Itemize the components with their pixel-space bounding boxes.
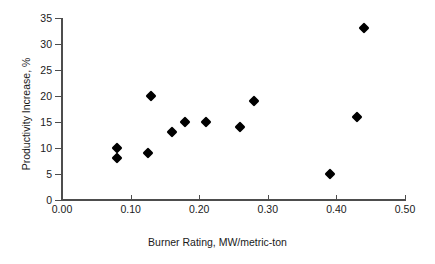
y-axis-tick (55, 96, 62, 97)
x-axis-tick-label: 0.10 (109, 204, 153, 215)
x-axis-tick (405, 195, 406, 201)
y-axis-title: Productivity Increase, % (20, 34, 32, 194)
y-axis-tick-label: 35 (22, 13, 52, 24)
plot-area (62, 18, 405, 200)
y-axis-tick (55, 70, 62, 71)
x-axis-tick-label: 0.40 (314, 204, 358, 215)
y-axis-tick (55, 174, 62, 175)
y-axis-tick (55, 18, 62, 19)
x-axis-tick-label: 0.20 (177, 204, 221, 215)
x-axis-tick-label: 0.30 (246, 204, 290, 215)
y-axis-tick (55, 200, 62, 201)
x-axis-tick-label: 0.50 (383, 204, 427, 215)
y-axis-tick (55, 44, 62, 45)
scatter-chart-figure: 05101520253035 0.000.100.200.300.400.50 … (0, 0, 435, 264)
y-axis-tick (55, 148, 62, 149)
y-axis-tick (55, 122, 62, 123)
x-axis-title: Burner Rating, MW/metric-ton (0, 236, 435, 248)
x-axis-tick-label: 0.00 (40, 204, 84, 215)
